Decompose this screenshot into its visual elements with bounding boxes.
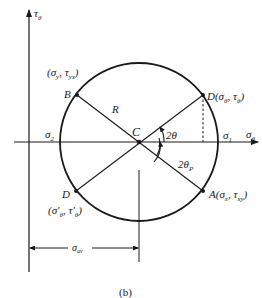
tau-axis: τθ [29,7,42,272]
label-2theta: 2θ [166,129,178,141]
point-C [137,140,142,145]
label-point-D: D(σθ, τθ) [206,90,244,105]
point-B [75,93,79,97]
sigma-axis-label: σθ [246,128,255,143]
label-C: C [132,125,141,139]
figure-caption: (b) [119,286,132,298]
point-A [201,189,205,193]
point-D [201,93,205,97]
label-Dprime-coords: (σ′θ, τ′θ) [48,204,82,219]
mohr-circle-diagram: τθ σθ C R 2θ 2θP σ1 σ2 D(σθ, τθ) B (σy, … [0,0,262,298]
label-sigma2: σ2 [45,128,54,143]
arc-2thetaP-arrow [154,142,160,162]
label-point-Dprime: D [61,188,70,200]
label-sigma-av: σav [72,242,83,254]
label-B-coords: (σy, τyx) [47,66,79,81]
label-2thetaP: 2θP [178,158,194,173]
point-Dprime [74,189,78,193]
label-point-B: B [64,88,71,100]
tau-axis-label: τθ [34,7,42,22]
label-radius: R [111,103,119,115]
sigma-av-dimension: σav [30,170,139,262]
arc-2theta [160,127,164,142]
label-point-A: A(σx, τxy) [208,188,248,203]
